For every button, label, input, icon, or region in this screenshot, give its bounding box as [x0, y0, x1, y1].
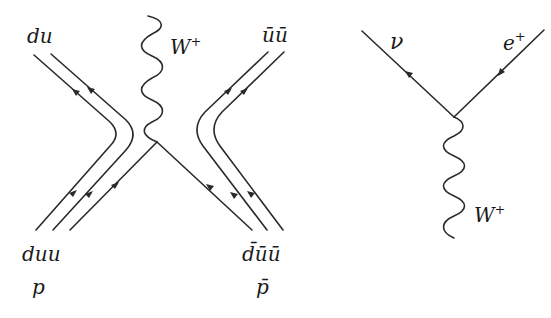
annihilation-diagram: du W+ ūū duu p d̄ūū p̄ [22, 16, 288, 299]
quark-line-bottom-right-third [157, 142, 252, 230]
label-w-boson-right: W+ [474, 202, 505, 227]
feynman-diagrams: du W+ ūū duu p d̄ūū p̄ ν e+ W+ [0, 0, 551, 318]
w-boson-propagator-left [142, 16, 163, 142]
arrow-up-left-icon [230, 192, 238, 199]
label-bottom-right-antiquarks: d̄ūū [242, 241, 281, 266]
label-antiproton: p̄ [256, 275, 269, 299]
label-top-left-quarks: du [27, 24, 53, 48]
label-top-right-antiquarks: ūū [262, 23, 288, 47]
label-proton: p [32, 275, 45, 299]
label-neutrino: ν [390, 29, 403, 54]
arrow-up-right-icon [85, 191, 93, 198]
w-decay-diagram: ν e+ W+ [362, 29, 544, 238]
w-boson-propagator-right [444, 117, 465, 238]
antiquark-line-top-right-inner [214, 52, 284, 230]
label-w-boson-left: W+ [170, 34, 201, 59]
arrow-up-left-icon [87, 87, 95, 94]
label-bottom-left-quarks: duu [22, 242, 61, 266]
quark-line-top-left-outer [34, 55, 116, 230]
